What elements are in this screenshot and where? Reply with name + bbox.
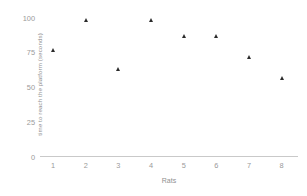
data-point — [214, 34, 218, 38]
y-tick-label: 0 — [31, 153, 35, 162]
data-point — [84, 18, 88, 22]
plot-area: time to reach the platform (seconds) 025… — [40, 12, 298, 157]
y-tick-label: 25 — [27, 118, 35, 127]
y-tick-label: 75 — [27, 48, 35, 57]
x-tick-label: 3 — [116, 161, 120, 170]
data-point — [149, 18, 153, 22]
x-tick-label: 5 — [182, 161, 186, 170]
data-point — [51, 48, 55, 52]
x-axis-line — [40, 156, 298, 157]
data-point — [247, 55, 251, 59]
x-axis-title: Rats — [40, 177, 298, 184]
x-tick-label: 6 — [214, 161, 218, 170]
scatter-chart: time to reach the platform (seconds) 025… — [0, 0, 307, 196]
data-point — [116, 67, 120, 71]
x-tick-label: 1 — [51, 161, 55, 170]
data-point — [280, 76, 284, 80]
x-tick-label: 8 — [280, 161, 284, 170]
data-point — [182, 34, 186, 38]
x-tick-label: 2 — [84, 161, 88, 170]
x-tick-label: 4 — [149, 161, 153, 170]
y-tick-label: 50 — [27, 83, 35, 92]
y-tick-label: 100 — [23, 13, 35, 22]
x-tick-label: 7 — [247, 161, 251, 170]
